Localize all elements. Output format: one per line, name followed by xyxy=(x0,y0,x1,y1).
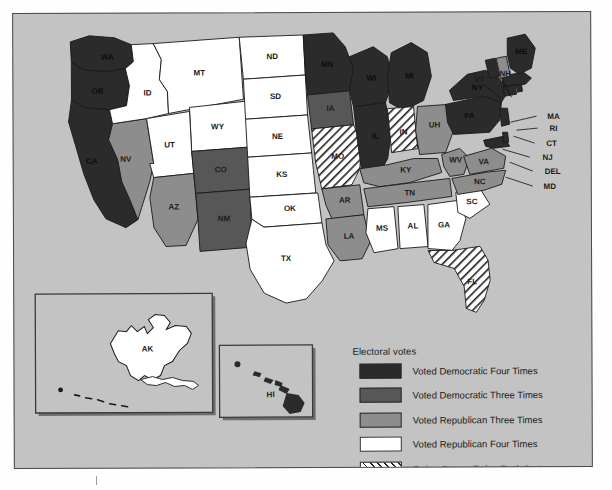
state-label-va: VA xyxy=(478,157,489,166)
state-label-ut: UT xyxy=(164,140,175,149)
state-label-wi: WI xyxy=(366,74,376,83)
map-legend: Electoral votes Voted Democratic Four Ti… xyxy=(351,345,584,468)
state-label-oh: UH xyxy=(429,120,441,129)
state-label-ks: KS xyxy=(276,170,288,179)
state-label-pa: PA xyxy=(464,111,475,120)
state-label-ar: AR xyxy=(339,196,351,205)
inset-label-ak: AK xyxy=(142,345,154,354)
state-label-id: ID xyxy=(143,89,151,98)
state-label-al: AL xyxy=(408,222,419,231)
state-label-in: IN xyxy=(400,128,408,137)
state-label-mn: MN xyxy=(321,60,334,69)
state-label-wv: WV xyxy=(449,155,463,164)
state-label-tx: TX xyxy=(281,254,292,263)
hawaii-inset[interactable]: HI xyxy=(219,345,315,420)
scanned-page: WAORCANVIDMTWYUTAZCONMNDSDNEKSOKTXMNIAMO… xyxy=(0,0,612,490)
state-label-ny: NY xyxy=(472,83,484,92)
state-callout-md: MD xyxy=(544,182,557,191)
state-label-fl: FL xyxy=(467,277,477,286)
state-callout-ct: CT xyxy=(546,139,557,148)
legend-row-rep3[interactable]: Voted Republican Three Times xyxy=(352,409,584,430)
legend-swatch-dem3 xyxy=(360,388,402,403)
state-label-mi: MI xyxy=(405,72,414,81)
state-callout-nh: NH xyxy=(500,69,512,78)
state-callout-ma: MA xyxy=(547,112,560,121)
state-label-nm: NM xyxy=(218,214,231,223)
legend-rows: Voted Democratic Four TimesVoted Democra… xyxy=(351,360,583,468)
legend-swatch-rep3 xyxy=(360,412,402,427)
state-label-ky: KY xyxy=(400,166,412,175)
state-label-co: CO xyxy=(215,165,227,174)
legend-label-swing: Swing State—Twice Each Party xyxy=(413,463,547,469)
state-callout-del: DEL xyxy=(545,167,561,176)
state-label-nv: NV xyxy=(120,155,132,164)
state-label-tn: TN xyxy=(404,189,415,198)
legend-row-swing[interactable]: Swing State—Twice Each Party xyxy=(352,458,584,468)
state-label-ms: MS xyxy=(376,224,389,233)
state-label-sc: SC xyxy=(466,197,477,206)
legend-row-dem3[interactable]: Voted Democratic Three Times xyxy=(352,384,584,405)
legend-row-dem4[interactable]: Voted Democratic Four Times xyxy=(351,360,583,381)
state-label-la: LA xyxy=(344,232,355,241)
state-label-ga: GA xyxy=(438,220,450,229)
legend-label-dem4: Voted Democratic Four Times xyxy=(412,365,537,376)
page-tick-mark xyxy=(96,476,97,485)
state-callout-ri: RI xyxy=(550,124,558,133)
state-label-nc: NC xyxy=(474,177,486,186)
state-label-il: IL xyxy=(372,132,379,141)
state-label-ne: NE xyxy=(272,132,284,141)
legend-title: Electoral votes xyxy=(352,345,583,357)
state-label-az: AZ xyxy=(169,202,180,211)
state-callout-nj: NJ xyxy=(543,153,553,162)
legend-swatch-rep4 xyxy=(360,437,402,452)
legend-swatch-dem4 xyxy=(359,363,401,378)
alaska-inset[interactable]: AK xyxy=(35,293,215,416)
state-label-ok: OK xyxy=(284,204,296,213)
legend-label-dem3: Voted Democratic Three Times xyxy=(413,389,543,401)
legend-row-rep4[interactable]: Voted Republican Four Times xyxy=(352,433,584,454)
state-label-nd: ND xyxy=(266,52,278,61)
state-label-wa: WA xyxy=(101,53,114,62)
legend-label-rep4: Voted Republican Four Times xyxy=(413,438,538,449)
state-label-sd: SD xyxy=(270,92,281,101)
state-label-me: ME xyxy=(515,47,528,56)
state-nj[interactable] xyxy=(499,108,509,126)
state-shapes[interactable] xyxy=(68,32,536,314)
state-label-ia: IA xyxy=(326,104,334,113)
legend-swatch-swing xyxy=(360,461,402,468)
state-del[interactable] xyxy=(503,132,509,142)
state-label-wy: WY xyxy=(211,122,225,131)
state-label-mo: MO xyxy=(331,152,344,161)
state-label-mt: MT xyxy=(194,68,206,77)
state-fl[interactable] xyxy=(428,246,490,312)
legend-label-rep3: Voted Republican Three Times xyxy=(413,414,543,425)
state-label-ca: CA xyxy=(86,157,98,166)
state-label-or: OR xyxy=(91,87,103,96)
map-panel: WAORCANVIDMTWYUTAZCONMNDSDNEKSOKTXMNIAMO… xyxy=(12,11,593,469)
state-callout-vt: VT xyxy=(474,75,484,84)
inset-label-hi: HI xyxy=(267,390,275,399)
